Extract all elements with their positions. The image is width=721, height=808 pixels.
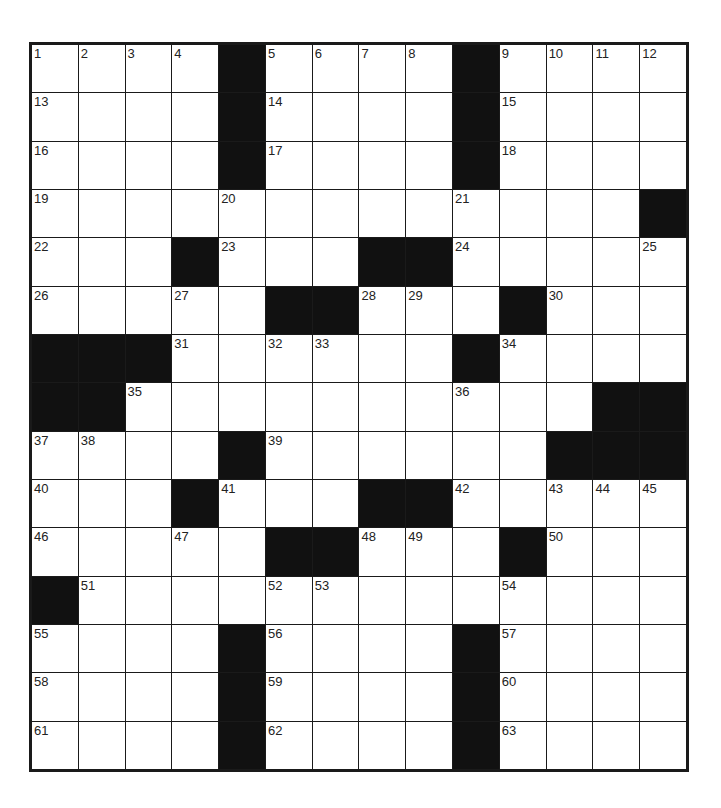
grid-cell[interactable]: 30: [547, 287, 593, 334]
grid-cell[interactable]: 50: [547, 528, 593, 575]
grid-cell[interactable]: [266, 480, 312, 527]
grid-cell[interactable]: 23: [219, 238, 265, 285]
grid-cell[interactable]: 46: [32, 528, 78, 575]
grid-cell[interactable]: 7: [359, 45, 405, 92]
grid-cell[interactable]: 55: [32, 625, 78, 672]
grid-cell[interactable]: [126, 480, 172, 527]
grid-cell[interactable]: 62: [266, 722, 312, 769]
grid-cell[interactable]: [313, 673, 359, 720]
grid-cell[interactable]: [126, 528, 172, 575]
grid-cell[interactable]: 11: [593, 45, 639, 92]
grid-cell[interactable]: [172, 383, 218, 430]
grid-cell[interactable]: [172, 577, 218, 624]
grid-cell[interactable]: [126, 142, 172, 189]
grid-cell[interactable]: 22: [32, 238, 78, 285]
grid-cell[interactable]: [406, 142, 452, 189]
grid-cell[interactable]: 59: [266, 673, 312, 720]
grid-cell[interactable]: [547, 238, 593, 285]
grid-cell[interactable]: [547, 383, 593, 430]
grid-cell[interactable]: 17: [266, 142, 312, 189]
grid-cell[interactable]: [126, 190, 172, 237]
grid-cell[interactable]: 56: [266, 625, 312, 672]
grid-cell[interactable]: 4: [172, 45, 218, 92]
grid-cell[interactable]: [453, 577, 499, 624]
grid-cell[interactable]: [359, 577, 405, 624]
grid-cell[interactable]: [593, 190, 639, 237]
grid-cell[interactable]: 44: [593, 480, 639, 527]
grid-cell[interactable]: 48: [359, 528, 405, 575]
grid-cell[interactable]: [219, 335, 265, 382]
grid-cell[interactable]: [172, 625, 218, 672]
grid-cell[interactable]: [79, 528, 125, 575]
grid-cell[interactable]: [593, 577, 639, 624]
grid-cell[interactable]: [79, 238, 125, 285]
grid-cell[interactable]: [172, 722, 218, 769]
grid-cell[interactable]: [500, 432, 546, 479]
grid-cell[interactable]: [640, 335, 686, 382]
grid-cell[interactable]: [640, 528, 686, 575]
grid-cell[interactable]: [313, 93, 359, 140]
grid-cell[interactable]: [126, 577, 172, 624]
grid-cell[interactable]: [79, 480, 125, 527]
grid-cell[interactable]: [359, 625, 405, 672]
grid-cell[interactable]: [406, 625, 452, 672]
grid-cell[interactable]: [406, 673, 452, 720]
grid-cell[interactable]: [593, 238, 639, 285]
grid-cell[interactable]: 37: [32, 432, 78, 479]
grid-cell[interactable]: [406, 577, 452, 624]
grid-cell[interactable]: [593, 142, 639, 189]
grid-cell[interactable]: [126, 673, 172, 720]
grid-cell[interactable]: [547, 673, 593, 720]
grid-cell[interactable]: 12: [640, 45, 686, 92]
grid-cell[interactable]: [79, 190, 125, 237]
grid-cell[interactable]: [359, 432, 405, 479]
grid-cell[interactable]: 35: [126, 383, 172, 430]
grid-cell[interactable]: 40: [32, 480, 78, 527]
grid-cell[interactable]: [172, 93, 218, 140]
grid-cell[interactable]: 2: [79, 45, 125, 92]
grid-cell[interactable]: [593, 93, 639, 140]
grid-cell[interactable]: [640, 577, 686, 624]
grid-cell[interactable]: 63: [500, 722, 546, 769]
grid-cell[interactable]: 1: [32, 45, 78, 92]
grid-cell[interactable]: 10: [547, 45, 593, 92]
grid-cell[interactable]: [406, 383, 452, 430]
grid-cell[interactable]: [313, 238, 359, 285]
grid-cell[interactable]: [640, 93, 686, 140]
grid-cell[interactable]: 57: [500, 625, 546, 672]
grid-cell[interactable]: [406, 335, 452, 382]
grid-cell[interactable]: [640, 673, 686, 720]
grid-cell[interactable]: 13: [32, 93, 78, 140]
grid-cell[interactable]: 42: [453, 480, 499, 527]
grid-cell[interactable]: [547, 93, 593, 140]
grid-cell[interactable]: 34: [500, 335, 546, 382]
grid-cell[interactable]: 41: [219, 480, 265, 527]
grid-cell[interactable]: 52: [266, 577, 312, 624]
grid-cell[interactable]: 16: [32, 142, 78, 189]
grid-cell[interactable]: [593, 528, 639, 575]
grid-cell[interactable]: [172, 673, 218, 720]
grid-cell[interactable]: [359, 383, 405, 430]
grid-cell[interactable]: 58: [32, 673, 78, 720]
grid-cell[interactable]: 3: [126, 45, 172, 92]
grid-cell[interactable]: 18: [500, 142, 546, 189]
grid-cell[interactable]: [406, 722, 452, 769]
grid-cell[interactable]: [126, 432, 172, 479]
grid-cell[interactable]: [359, 142, 405, 189]
grid-cell[interactable]: [79, 673, 125, 720]
grid-cell[interactable]: [219, 287, 265, 334]
grid-cell[interactable]: [313, 383, 359, 430]
grid-cell[interactable]: [640, 142, 686, 189]
grid-cell[interactable]: 28: [359, 287, 405, 334]
grid-cell[interactable]: 5: [266, 45, 312, 92]
grid-cell[interactable]: [453, 432, 499, 479]
grid-cell[interactable]: [313, 625, 359, 672]
grid-cell[interactable]: 38: [79, 432, 125, 479]
grid-cell[interactable]: [500, 238, 546, 285]
grid-cell[interactable]: [547, 335, 593, 382]
grid-cell[interactable]: 27: [172, 287, 218, 334]
grid-cell[interactable]: 31: [172, 335, 218, 382]
grid-cell[interactable]: 54: [500, 577, 546, 624]
grid-cell[interactable]: 9: [500, 45, 546, 92]
grid-cell[interactable]: [359, 93, 405, 140]
